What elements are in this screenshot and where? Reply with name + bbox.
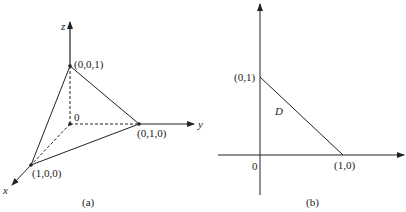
edge-z-x [31,66,70,165]
point-010 [137,122,141,126]
z-axis-label: z [60,20,66,32]
point-001-label: (0,0,1) [74,58,104,71]
point-10-label: (1,0) [334,159,355,172]
point-010-label: (0,1,0) [137,127,167,140]
point-001 [68,64,72,68]
caption-a: (a) [82,196,95,209]
point-100-label: (1,0,0) [32,167,62,180]
y-axis-label: y [197,118,203,130]
edge-z-y [70,66,139,124]
x-axis [12,165,31,185]
origin-point [68,122,72,126]
figure-a: z y x 0 (0,0,1) (0,1,0) (1,0,0) (a) [2,20,203,209]
point-01-label: (0,1) [234,71,255,84]
caption-b: (b) [306,196,319,209]
origin-label-b: 0 [252,160,258,172]
x-axis-label: x [2,184,8,196]
region-boundary [260,77,343,155]
region-label: D [274,105,283,117]
edge-x-y [31,124,139,165]
origin-label: 0 [74,111,80,123]
figure-b: (0,1) (1,0) 0 D (b) [218,4,404,209]
x-axis-hidden [31,124,70,165]
diagram-canvas: z y x 0 (0,0,1) (0,1,0) (1,0,0) (a) (0,1… [0,0,406,212]
